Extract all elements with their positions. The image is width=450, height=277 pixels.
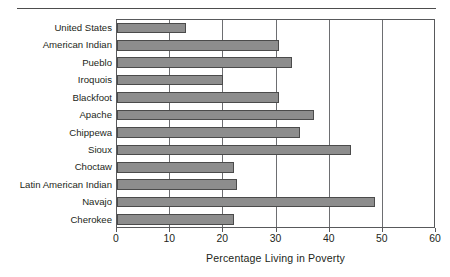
category-label: Apache [0, 106, 112, 123]
bar [117, 145, 351, 156]
bar [117, 197, 375, 208]
bar-row [117, 20, 436, 37]
category-label: Sioux [0, 141, 112, 158]
plot-area [116, 19, 435, 228]
tick-mark-0 [116, 228, 117, 232]
category-label: Cherokee [0, 211, 112, 228]
category-label: Chippewa [0, 124, 112, 141]
bar-row [117, 55, 436, 72]
bar [117, 40, 279, 51]
bar-row [117, 90, 436, 107]
bar-row [117, 125, 436, 142]
tick-mark-20 [222, 228, 223, 232]
tick-mark-50 [382, 228, 383, 232]
bar [117, 162, 234, 173]
category-label: Iroquois [0, 71, 112, 88]
category-label: Choctaw [0, 158, 112, 175]
tick-label-60: 60 [415, 233, 450, 244]
category-label: Navajo [0, 193, 112, 210]
bar [117, 57, 292, 68]
category-axis-labels: United StatesAmerican IndianPuebloIroquo… [0, 19, 112, 228]
bar-row [117, 72, 436, 89]
bar-row [117, 159, 436, 176]
bar-row [117, 177, 436, 194]
x-axis-title: Percentage Living in Poverty [116, 252, 435, 264]
tick-mark-30 [276, 228, 277, 232]
bar [117, 127, 300, 138]
tick-mark-40 [329, 228, 330, 232]
tick-label-50: 50 [362, 233, 402, 244]
category-label: Blackfoot [0, 89, 112, 106]
bar-row [117, 37, 436, 54]
bar [117, 75, 223, 86]
category-label: Latin American Indian [0, 176, 112, 193]
tick-label-40: 40 [309, 233, 349, 244]
bar-row [117, 107, 436, 124]
tick-label-20: 20 [202, 233, 242, 244]
category-label: Pueblo [0, 54, 112, 71]
bar-row [117, 142, 436, 159]
poverty-bar-chart: United StatesAmerican IndianPuebloIroquo… [0, 0, 450, 277]
bar [117, 179, 237, 190]
bar [117, 92, 279, 103]
tick-label-30: 30 [256, 233, 296, 244]
tick-label-10: 10 [149, 233, 189, 244]
tick-label-0: 0 [96, 233, 136, 244]
tick-mark-10 [169, 228, 170, 232]
bar [117, 23, 186, 34]
category-label: American Indian [0, 36, 112, 53]
bar-row [117, 212, 436, 229]
bar [117, 214, 234, 225]
category-label: United States [0, 19, 112, 36]
header-divider [17, 8, 436, 9]
tick-mark-60 [435, 228, 436, 232]
bar [117, 110, 314, 121]
bar-row [117, 194, 436, 211]
